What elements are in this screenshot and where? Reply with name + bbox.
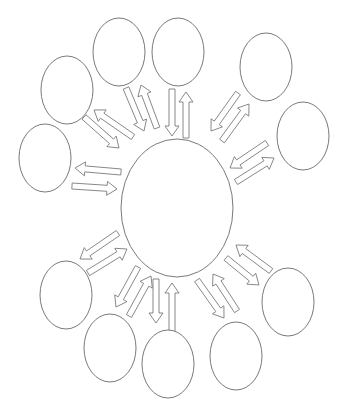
hub-spoke-diagram	[0, 0, 344, 413]
node-ellipse[interactable]	[93, 18, 145, 86]
node-ellipse[interactable]	[240, 33, 292, 101]
node-left[interactable]	[19, 124, 71, 192]
center-hub-ellipse[interactable]	[121, 139, 233, 277]
node-ellipse[interactable]	[41, 56, 93, 124]
node-ellipse[interactable]	[19, 124, 71, 192]
node-ellipse[interactable]	[277, 102, 329, 170]
node-ellipse[interactable]	[40, 261, 92, 329]
node-right[interactable]	[277, 102, 329, 170]
arrow-top-to-hub-icon	[165, 89, 179, 136]
node-upper-left[interactable]	[41, 56, 93, 124]
node-top-left[interactable]	[93, 18, 145, 86]
arrow-top-to-node-icon	[179, 92, 193, 138]
node-lower-left[interactable]	[40, 261, 92, 329]
node-bottom-right[interactable]	[210, 322, 262, 390]
hub-layer	[121, 139, 233, 277]
arrow-left-to-hub-icon	[72, 181, 117, 195]
node-ellipse[interactable]	[152, 18, 204, 86]
node-ellipse[interactable]	[84, 314, 136, 382]
node-ellipse[interactable]	[142, 330, 194, 398]
arrow-left-to-node-icon	[75, 162, 121, 176]
node-ellipse[interactable]	[210, 322, 262, 390]
node-top[interactable]	[152, 18, 204, 86]
node-lower-right[interactable]	[262, 268, 314, 336]
arrow-bottom-to-hub-icon	[165, 283, 179, 332]
node-upper-right[interactable]	[240, 33, 292, 101]
node-bottom[interactable]	[142, 330, 194, 398]
node-bottom-left[interactable]	[84, 314, 136, 382]
node-ellipse[interactable]	[262, 268, 314, 336]
